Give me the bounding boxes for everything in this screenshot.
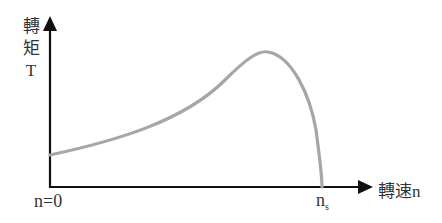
y-axis-label-line2: 矩 xyxy=(22,38,40,60)
torque-speed-diagram xyxy=(0,0,442,223)
y-axis-label-line3: T xyxy=(22,60,40,82)
ns-subscript: s xyxy=(325,201,329,212)
synchronous-speed-label: ns xyxy=(316,190,329,212)
x-axis-label: 轉速n xyxy=(378,177,421,202)
torque-curve xyxy=(50,52,322,187)
y-axis-label: 轉 矩 T xyxy=(22,16,40,82)
origin-label: n=0 xyxy=(34,191,62,212)
ns-main: n xyxy=(316,190,325,210)
x-axis-arrow-icon xyxy=(358,180,373,194)
y-axis-arrow-icon xyxy=(43,16,57,31)
y-axis-label-line1: 轉 xyxy=(22,16,40,38)
